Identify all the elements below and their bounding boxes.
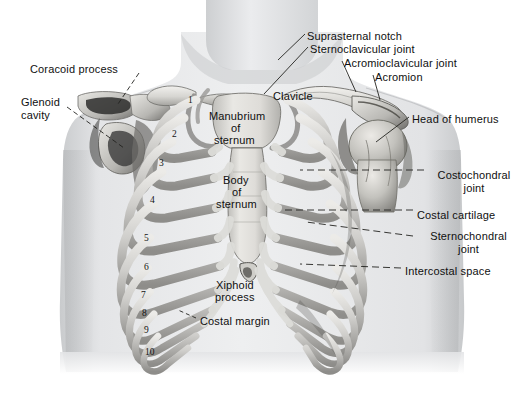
rib-number-7: 7 bbox=[141, 290, 146, 300]
label-clavicle: Clavicle bbox=[273, 90, 313, 103]
rib-number-2: 2 bbox=[172, 129, 177, 139]
rib-number-10: 10 bbox=[145, 347, 155, 357]
label-acromioclavicular-joint: Acromioclavicular joint bbox=[344, 57, 457, 70]
label-costal-margin: Costal margin bbox=[200, 315, 270, 328]
label-intercostal-space: Intercostal space bbox=[405, 265, 491, 278]
label-body-line3: sternum bbox=[216, 198, 257, 211]
label-costal-cartilage: Costal cartilage bbox=[417, 209, 495, 222]
anatomy-figure: Coracoid process Glenoid cavity Supraste… bbox=[0, 0, 524, 405]
rib-number-9: 9 bbox=[144, 325, 149, 335]
label-costochondral-joint-line2: joint bbox=[428, 182, 520, 195]
label-manubrium-line1: Manubrium bbox=[209, 110, 265, 123]
label-costochondral-joint: Costochondral joint bbox=[428, 169, 520, 194]
label-xiphoid-line2: process bbox=[215, 291, 255, 304]
label-sternochondral-joint-line2: joint bbox=[417, 243, 520, 256]
label-body-line2: of bbox=[232, 186, 241, 199]
label-xiphoid-line1: Xiphoid bbox=[216, 279, 254, 292]
rib-number-3: 3 bbox=[159, 158, 164, 168]
label-body-line1: Body bbox=[223, 174, 249, 187]
label-manubrium-line3: sternum bbox=[214, 134, 255, 147]
rib-number-1: 1 bbox=[188, 95, 193, 105]
label-glenoid-cavity: Glenoid bbox=[21, 96, 60, 109]
label-costochondral-joint-line1: Costochondral bbox=[428, 169, 520, 182]
label-coracoid-process: Coracoid process bbox=[30, 63, 118, 76]
label-sternochondral-joint-line1: Sternochondral bbox=[417, 230, 520, 243]
rib-number-4: 4 bbox=[150, 195, 155, 205]
label-manubrium-line2: of bbox=[231, 122, 240, 135]
label-sternochondral-joint: Sternochondral joint bbox=[417, 230, 520, 255]
rib-number-5: 5 bbox=[144, 233, 149, 243]
label-acromion: Acromion bbox=[375, 71, 423, 84]
label-sternoclavicular-joint: Sternoclavicular joint bbox=[310, 43, 415, 56]
label-head-of-humerus: Head of humerus bbox=[412, 113, 499, 126]
label-glenoid-cavity-line2: cavity bbox=[21, 109, 50, 122]
rib-number-6: 6 bbox=[144, 262, 149, 272]
label-suprasternal-notch: Suprasternal notch bbox=[307, 30, 402, 43]
rib-number-8: 8 bbox=[142, 308, 147, 318]
